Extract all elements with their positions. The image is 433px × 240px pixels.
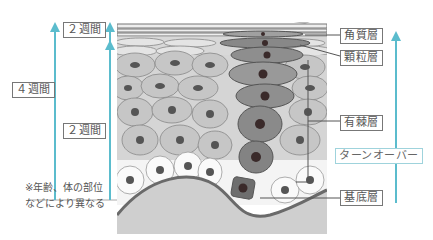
label-stratum-spinosum: 有棘層 bbox=[340, 115, 383, 131]
footnote-line-1: ※年齢、体の部位 bbox=[25, 180, 103, 196]
label-stratum-granulosum: 顆粒層 bbox=[340, 50, 383, 66]
footnote-line-2: などにより異なる bbox=[25, 196, 105, 212]
label-stratum-corneum: 角質層 bbox=[340, 28, 383, 44]
label-2-weeks-lower: ２週間 bbox=[63, 123, 106, 139]
label-2-weeks-upper: ２週間 bbox=[63, 22, 106, 38]
arrow-2-weeks-lower bbox=[105, 40, 115, 200]
label-4-weeks: ４週間 bbox=[12, 82, 55, 98]
arrow-4-weeks bbox=[50, 22, 60, 200]
label-turnover: ターンオーバー bbox=[335, 148, 423, 164]
label-stratum-basale: 基底層 bbox=[340, 190, 383, 206]
arrow-turnover bbox=[391, 31, 401, 203]
skin-cross-section bbox=[112, 6, 332, 234]
